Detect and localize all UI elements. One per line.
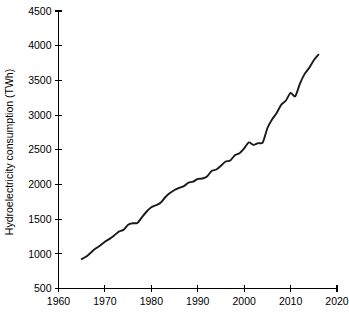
x-axis-tick-label: 1990 [186, 295, 210, 307]
y-axis-tick-label: 4000 [28, 39, 52, 51]
y-axis-ticks: 50010001500200025003000350040004500 [28, 5, 62, 295]
y-axis-tick-label: 3000 [28, 109, 52, 121]
y-axis-tick-label: 500 [34, 282, 52, 294]
y-axis-tick-label: 1500 [28, 213, 52, 225]
x-axis: 1960197019801990200020102020 [47, 285, 349, 307]
y-axis-title: Hydroelectricity consumption (TWh) [3, 69, 15, 235]
y-axis-tick-label: 1000 [28, 248, 52, 260]
chart-plot-area: 50010001500200025003000350040004500 1960… [0, 0, 349, 321]
series-line-hydroelectricity [82, 55, 319, 259]
y-axis-tick-label: 4500 [28, 5, 52, 17]
y-axis-tick-label: 2000 [28, 178, 52, 190]
data-series-group [82, 55, 319, 259]
x-axis-tick-label: 1960 [47, 295, 71, 307]
x-axis-tick-label: 1970 [93, 295, 117, 307]
x-axis-tick-label: 2000 [232, 295, 256, 307]
x-axis-tick-label: 1980 [140, 295, 164, 307]
hydroelectricity-consumption-chart: 50010001500200025003000350040004500 1960… [0, 0, 349, 321]
x-axis-tick-label: 2020 [325, 295, 349, 307]
y-axis-tick-label: 2500 [28, 143, 52, 155]
x-axis-tick-label: 2010 [279, 295, 303, 307]
y-axis-tick-label: 3500 [28, 74, 52, 86]
y-axis: 50010001500200025003000350040004500 [28, 5, 62, 295]
